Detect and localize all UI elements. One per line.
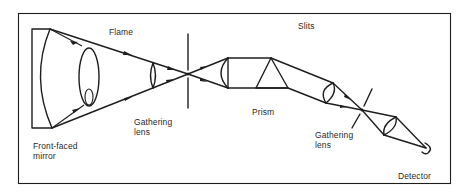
gathering-lens-1-icon [151, 63, 156, 88]
prism-icon [228, 58, 288, 88]
gathering-lens-2-icon [384, 117, 397, 135]
diagram-frame [19, 14, 451, 184]
label-detector: Detector [398, 171, 431, 181]
arrow-icon [166, 79, 174, 83]
label-gathering-lens-2: Gathering lens [315, 130, 353, 150]
arrow-icon [167, 66, 175, 70]
label-flame: Flame [109, 27, 133, 37]
label-slits: Slits [298, 21, 315, 31]
diagram-drawing [0, 0, 461, 195]
label-gathering-lens-1: Gathering lens [134, 117, 172, 137]
incoming-rays [50, 29, 188, 128]
flame-icon [79, 48, 99, 106]
optical-path-diagram: Flame Slits Gathering lens Prism Gatheri… [0, 0, 461, 195]
label-front-faced-mirror: Front-faced mirror [33, 141, 78, 161]
arrow-icon [200, 66, 207, 70]
arrow-icon [344, 94, 351, 100]
arrow-icon [124, 97, 132, 101]
entrance-slit-icon [187, 34, 190, 108]
arrow-icon [123, 51, 132, 55]
focusing-lens-icon [323, 83, 334, 103]
collimating-lens-icon [221, 58, 228, 88]
label-prism: Prism [252, 107, 274, 117]
front-faced-mirror-icon [32, 29, 52, 128]
